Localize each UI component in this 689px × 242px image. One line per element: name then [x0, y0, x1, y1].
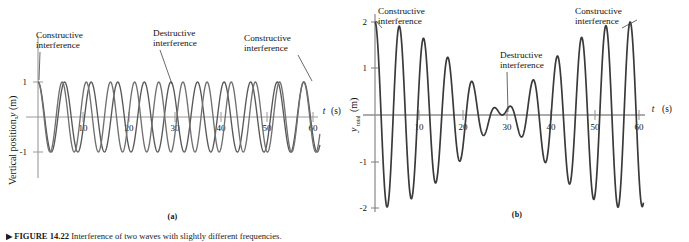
caption-number: FIGURE 14.22	[14, 231, 69, 241]
annotation-b-0-line1: Constructive	[378, 6, 425, 16]
annotation-b-2-line1: Constructive	[575, 6, 622, 16]
y-axis-label-b-subscript: total	[355, 115, 361, 126]
y-tick-label-b-1: 1	[363, 63, 368, 73]
x-ticks-b: 10 20 30 40 50 60	[415, 110, 645, 132]
x-axis-label-a-unit: (s)	[331, 106, 341, 117]
annotation-constructive-left-a: Constructive interference	[36, 30, 83, 80]
leader-line-a-2	[298, 55, 312, 81]
x-tick-label-a-4: 50	[263, 123, 273, 133]
annotation-constructive-right-b: Constructive interference	[575, 6, 637, 28]
caption-text: Interference of two waves with slightly …	[71, 231, 281, 241]
y-axis-label-a-symbol: y	[7, 112, 18, 118]
y-tick-label-b-2: -1	[360, 157, 368, 167]
annotation-a-2-line1: Constructive	[244, 33, 291, 43]
caption-arrow-icon: ▶	[6, 232, 12, 241]
annotation-a-2-line2: interference	[244, 43, 288, 53]
y-axis-label-a-text: Vertical position,	[7, 117, 18, 185]
x-axis-label-b-unit: (s)	[662, 104, 672, 115]
leader-line-a-1	[160, 50, 172, 84]
annotation-b-1-line2: interference	[500, 60, 544, 70]
annotation-destructive-a: Destructive interference	[153, 28, 197, 84]
figure-caption: ▶ FIGURE 14.22 Interference of two waves…	[6, 231, 676, 242]
y-tick-label-a-0: 1	[23, 77, 28, 87]
annotation-a-0-line1: Constructive	[36, 30, 83, 40]
annotation-b-1-line1: Destructive	[500, 50, 542, 60]
annotation-b-2-line2: interference	[575, 16, 619, 26]
x-tick-label-b-2: 30	[503, 122, 513, 132]
panel-a-sublabel: (a)	[0, 212, 345, 221]
x-tick-label-b-1: 20	[459, 122, 469, 132]
leader-line-b-1	[507, 72, 508, 112]
x-axis-label-a-symbol: t	[323, 106, 326, 116]
annotation-constructive-right-a: Constructive interference	[244, 33, 312, 81]
panel-b-plot: 2 1 -1 -2 10 20 30 40 50 60	[345, 0, 689, 212]
annotation-constructive-left-b: Constructive interference	[376, 6, 425, 28]
annotation-a-0-line2: interference	[36, 40, 80, 50]
y-tick-label-b-0: 2	[363, 17, 368, 27]
x-axis-label-b-symbol: t	[652, 104, 655, 114]
annotation-a-1-line1: Destructive	[153, 28, 195, 38]
y-axis-label-a: Vertical position, y (m)	[7, 96, 19, 185]
y-axis-label-b-unit: (m)	[348, 98, 360, 112]
y-axis-label-b-symbol: y	[348, 127, 359, 133]
panel-a-plot: 1 -1 10 20 30 40 50 60 t (s)	[0, 0, 345, 212]
panel-a: 1 -1 10 20 30 40 50 60 t (s)	[0, 0, 345, 240]
y-axis-label-a-unit: (m)	[7, 96, 19, 110]
y-tick-label-a-1: -1	[20, 147, 28, 157]
x-ticks-a: 10 20 30 40 50 60	[79, 112, 319, 133]
y-axis-label-b: y total (m)	[348, 98, 361, 133]
annotation-a-1-line2: interference	[153, 38, 197, 48]
panel-b: 2 1 -1 -2 10 20 30 40 50 60	[345, 0, 689, 240]
leader-line-a-0	[39, 52, 40, 80]
annotation-b-0-line2: interference	[378, 16, 422, 26]
panel-b-sublabel: (b)	[345, 210, 689, 219]
x-tick-label-b-0: 10	[415, 122, 425, 132]
